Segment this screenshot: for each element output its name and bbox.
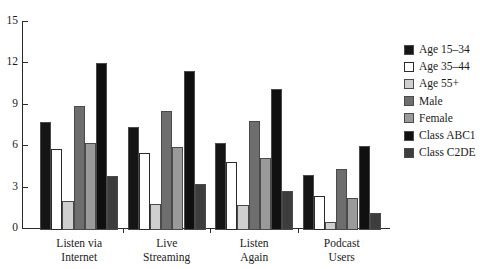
legend-item-7[interactable]: Class C2DE <box>404 144 496 161</box>
bar[interactable] <box>172 147 183 230</box>
x-tick-mark <box>123 228 124 233</box>
legend-label: Age 35–44 <box>419 60 470 73</box>
bar[interactable] <box>85 143 96 230</box>
chart-legend: Age 15–34Age 35–44Age 55+MaleFemaleClass… <box>404 41 496 161</box>
x-tick-mark <box>298 228 299 233</box>
bar[interactable] <box>74 106 85 230</box>
legend-item-2[interactable]: Age 35–44 <box>404 58 496 75</box>
bar[interactable] <box>195 184 206 230</box>
bar[interactable] <box>282 191 293 230</box>
bar[interactable] <box>40 122 51 230</box>
legend-label: Class ABC1 <box>419 129 476 142</box>
bar[interactable] <box>260 158 271 230</box>
x-axis-label-line: Users <box>283 250 401 264</box>
bar[interactable] <box>161 111 172 230</box>
x-axis-label-line: Podcast <box>283 236 401 250</box>
y-tick-label: 9 <box>12 97 18 110</box>
x-tick-mark <box>210 228 211 233</box>
y-tick-label: 15 <box>7 14 19 27</box>
legend-swatch-icon <box>404 148 414 158</box>
y-tick-mark <box>22 145 28 146</box>
legend-label: Class C2DE <box>419 146 476 159</box>
legend-item-1[interactable]: Age 15–34 <box>404 41 496 58</box>
bar[interactable] <box>359 146 370 230</box>
bar[interactable] <box>347 198 358 230</box>
bar[interactable] <box>184 71 195 230</box>
bar-group-1 <box>40 20 118 230</box>
bar[interactable] <box>51 149 62 230</box>
legend-item-4[interactable]: Male <box>404 93 496 110</box>
legend-swatch-icon <box>404 79 414 89</box>
legend-item-6[interactable]: Class ABC1 <box>404 127 496 144</box>
bar[interactable] <box>271 89 282 230</box>
bar[interactable] <box>215 143 226 230</box>
y-tick-label: 3 <box>12 180 18 193</box>
bar[interactable] <box>150 204 161 230</box>
plot-area: 03691215 <box>22 18 390 230</box>
legend-label: Male <box>419 95 443 108</box>
bar[interactable] <box>314 196 325 231</box>
bar[interactable] <box>139 153 150 230</box>
bar[interactable] <box>325 222 336 230</box>
y-tick-mark <box>22 228 28 229</box>
bar[interactable] <box>336 169 347 230</box>
legend-label: Female <box>419 112 453 125</box>
y-tick-mark <box>22 187 28 188</box>
bar[interactable] <box>303 175 314 230</box>
y-axis-line <box>22 21 23 228</box>
bar[interactable] <box>237 205 248 230</box>
chart-figure: 03691215 Listen viaInternetLiveStreaming… <box>0 0 496 269</box>
legend-label: Age 55+ <box>419 77 459 90</box>
legend-swatch-icon <box>404 96 414 106</box>
legend-swatch-icon <box>404 131 414 141</box>
legend-label: Age 15–34 <box>419 43 470 56</box>
legend-swatch-icon <box>404 62 414 72</box>
legend-swatch-icon <box>404 113 414 123</box>
y-tick-mark <box>22 21 28 22</box>
bar-group-2 <box>128 20 206 230</box>
legend-item-5[interactable]: Female <box>404 110 496 127</box>
y-tick-mark <box>22 104 28 105</box>
bar[interactable] <box>226 162 237 230</box>
bar[interactable] <box>249 121 260 230</box>
y-tick-label: 6 <box>12 138 18 151</box>
x-axis-label-4: PodcastUsers <box>283 236 401 264</box>
bar[interactable] <box>370 213 381 230</box>
y-tick-label: 0 <box>12 221 18 234</box>
legend-item-3[interactable]: Age 55+ <box>404 75 496 92</box>
y-tick-mark <box>22 62 28 63</box>
bar[interactable] <box>128 127 139 231</box>
bar[interactable] <box>107 176 118 230</box>
legend-swatch-icon <box>404 45 414 55</box>
bar[interactable] <box>96 63 107 230</box>
bar[interactable] <box>62 201 73 230</box>
bar-group-4 <box>303 20 381 230</box>
y-tick-label: 12 <box>7 55 19 68</box>
bar-group-3 <box>215 20 293 230</box>
